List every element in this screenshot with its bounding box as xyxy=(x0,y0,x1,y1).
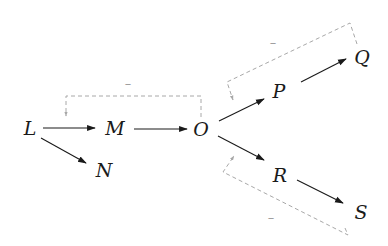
pathway-diagram: – – – L M N O P Q R S xyxy=(0,0,388,246)
edge-O-R xyxy=(218,136,264,160)
node-O: O xyxy=(193,118,209,140)
node-N: N xyxy=(95,159,114,181)
edge-O-P xyxy=(219,99,264,121)
node-P: P xyxy=(272,80,287,102)
node-S: S xyxy=(354,201,367,223)
node-R: R xyxy=(272,164,287,186)
edge-R-S xyxy=(297,180,343,203)
node-Q: Q xyxy=(354,46,370,68)
sign-minus-OP: – xyxy=(270,35,277,50)
sign-minus-OR: – xyxy=(268,210,275,225)
feedback-Q-to-OP xyxy=(227,23,357,100)
node-M: M xyxy=(104,117,125,139)
node-L: L xyxy=(23,117,37,139)
edge-P-Q xyxy=(301,59,346,82)
edge-L-N xyxy=(41,138,86,163)
sign-minus-LM: – xyxy=(125,76,132,91)
feedback-O-to-LM xyxy=(66,96,201,117)
